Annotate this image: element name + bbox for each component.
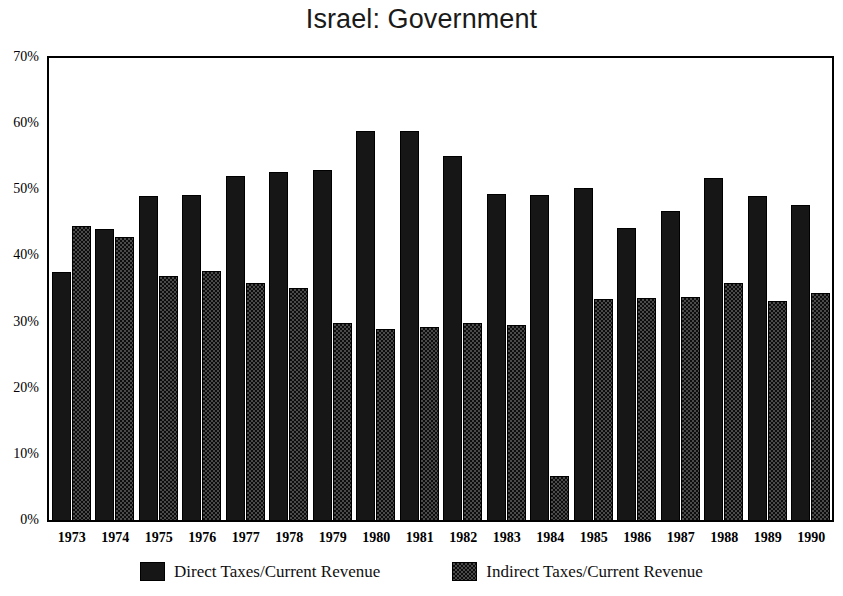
x-tick-label: 1977 xyxy=(232,530,260,546)
bar-direct-1981 xyxy=(400,131,419,521)
y-tick-label: 0% xyxy=(20,513,39,527)
x-tick-label: 1981 xyxy=(406,530,434,546)
bar-indirect-1985 xyxy=(594,299,613,521)
bar-indirect-1976 xyxy=(202,271,221,521)
bar-group xyxy=(530,58,570,521)
x-tick-label: 1976 xyxy=(188,530,216,546)
bar-group xyxy=(704,58,744,521)
x-tick-label: 1983 xyxy=(493,530,521,546)
bar-indirect-1988 xyxy=(724,283,743,521)
bar-direct-1986 xyxy=(617,228,636,521)
bar-indirect-1974 xyxy=(115,237,134,521)
y-tick-label: 20% xyxy=(13,381,39,395)
legend-swatch-icon xyxy=(452,562,477,581)
bar-direct-1989 xyxy=(748,196,767,521)
x-tick-label: 1990 xyxy=(797,530,825,546)
bar-direct-1987 xyxy=(661,211,680,521)
bar-direct-1990 xyxy=(791,205,810,521)
bar-direct-1976 xyxy=(182,195,201,521)
x-tick-label: 1984 xyxy=(536,530,564,546)
x-tick-label: 1973 xyxy=(58,530,86,546)
bar-indirect-1984 xyxy=(550,476,569,521)
y-tick-label: 40% xyxy=(13,248,39,262)
y-tick-label: 50% xyxy=(13,182,39,196)
bar-indirect-1978 xyxy=(289,288,308,521)
bar-group xyxy=(661,58,701,521)
x-tick-label: 1974 xyxy=(101,530,129,546)
bar-group xyxy=(574,58,614,521)
page-title: Israel: Government xyxy=(0,2,843,36)
x-axis: 1973197419751976197719781979198019811982… xyxy=(49,530,832,550)
chart-legend: Direct Taxes/Current RevenueIndirect Tax… xyxy=(0,556,843,586)
bar-direct-1982 xyxy=(443,156,462,521)
x-tick-label: 1985 xyxy=(580,530,608,546)
bar-group xyxy=(313,58,353,521)
x-tick-label: 1989 xyxy=(754,530,782,546)
plot-area xyxy=(49,58,832,521)
bar-indirect-1980 xyxy=(376,329,395,521)
bar-indirect-1975 xyxy=(159,276,178,521)
bar-direct-1974 xyxy=(95,229,114,521)
bar-group xyxy=(95,58,135,521)
bar-group xyxy=(791,58,831,521)
bar-indirect-1977 xyxy=(246,283,265,521)
x-tick-label: 1982 xyxy=(449,530,477,546)
legend-item-label: Direct Taxes/Current Revenue xyxy=(174,562,380,581)
bar-indirect-1989 xyxy=(768,301,787,521)
x-tick-label: 1988 xyxy=(710,530,738,546)
bar-direct-1977 xyxy=(226,176,245,521)
y-tick-label: 70% xyxy=(13,50,39,64)
legend-item-label: Indirect Taxes/Current Revenue xyxy=(486,562,703,581)
bar-group xyxy=(139,58,179,521)
chart-page: Israel: Government 0%10%20%30%40%50%60%7… xyxy=(0,0,843,596)
bar-group xyxy=(52,58,92,521)
x-tick-label: 1986 xyxy=(623,530,651,546)
y-tick-label: 60% xyxy=(13,116,39,130)
bar-indirect-1982 xyxy=(463,323,482,521)
bar-group xyxy=(400,58,440,521)
bar-indirect-1986 xyxy=(637,298,656,521)
bar-direct-1980 xyxy=(356,131,375,521)
bar-direct-1973 xyxy=(52,272,71,521)
bar-direct-1988 xyxy=(704,178,723,521)
bar-direct-1978 xyxy=(269,172,288,521)
bar-group xyxy=(226,58,266,521)
legend-swatch-icon xyxy=(140,562,165,581)
bar-direct-1984 xyxy=(530,195,549,521)
y-axis: 0%10%20%30%40%50%60%70% xyxy=(0,56,44,522)
x-tick-label: 1980 xyxy=(362,530,390,546)
bar-direct-1975 xyxy=(139,196,158,521)
bar-indirect-1981 xyxy=(420,327,439,521)
bar-group xyxy=(487,58,527,521)
bar-indirect-1990 xyxy=(811,293,830,521)
bar-group xyxy=(443,58,483,521)
x-tick-label: 1987 xyxy=(667,530,695,546)
bar-indirect-1973 xyxy=(72,226,91,521)
x-tick-label: 1978 xyxy=(275,530,303,546)
bar-direct-1979 xyxy=(313,170,332,521)
x-tick-label: 1975 xyxy=(145,530,173,546)
bar-indirect-1979 xyxy=(333,323,352,521)
bar-group xyxy=(269,58,309,521)
bar-group xyxy=(182,58,222,521)
bar-direct-1983 xyxy=(487,194,506,521)
y-tick-label: 10% xyxy=(13,447,39,461)
bar-group xyxy=(617,58,657,521)
legend-item: Direct Taxes/Current Revenue xyxy=(140,562,380,581)
bar-group xyxy=(748,58,788,521)
bar-direct-1985 xyxy=(574,188,593,521)
bar-indirect-1987 xyxy=(681,297,700,521)
legend-item: Indirect Taxes/Current Revenue xyxy=(452,562,703,581)
y-tick-label: 30% xyxy=(13,315,39,329)
bar-group xyxy=(356,58,396,521)
bar-indirect-1983 xyxy=(507,325,526,521)
x-tick-label: 1979 xyxy=(319,530,347,546)
